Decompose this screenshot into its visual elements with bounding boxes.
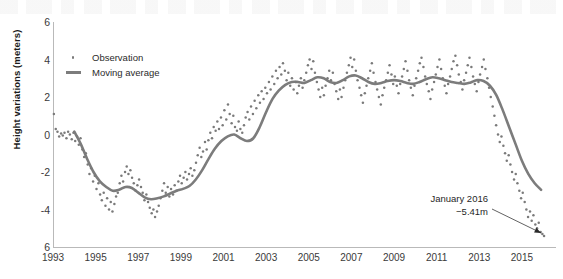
observation-point — [108, 208, 111, 211]
moving-average-line — [74, 75, 541, 199]
observation-point — [113, 203, 116, 206]
observation-point — [95, 188, 98, 191]
observation-point — [371, 62, 374, 65]
observation-point — [431, 88, 434, 91]
observation-point — [152, 208, 155, 211]
observation-point — [342, 86, 345, 89]
observation-point — [186, 178, 189, 181]
observation-point — [154, 216, 157, 219]
observation-point — [284, 70, 287, 73]
observation-point — [294, 81, 297, 84]
observation-point — [323, 94, 326, 97]
observation-point — [465, 71, 468, 74]
observation-point — [287, 71, 290, 74]
observation-point — [333, 83, 336, 86]
observation-point — [204, 141, 207, 144]
observation-point — [518, 190, 521, 193]
observation-point — [396, 85, 399, 88]
observation-point — [353, 58, 356, 61]
observation-point — [335, 90, 338, 93]
observation-point — [285, 79, 288, 82]
observation-point — [433, 81, 436, 84]
observation-point — [198, 146, 201, 149]
observation-point — [172, 193, 175, 196]
observation-point — [392, 83, 395, 86]
observation-point — [180, 182, 183, 185]
observation-point — [303, 79, 306, 82]
observation-point — [244, 116, 247, 119]
observation-point — [463, 79, 466, 82]
observation-point — [268, 81, 271, 84]
x-axis-tick: 2001 — [201, 252, 247, 263]
observation-point — [205, 148, 208, 151]
observation-point — [511, 171, 514, 174]
observation-point — [252, 113, 255, 116]
observation-point — [165, 191, 168, 194]
observation-point — [346, 71, 349, 74]
observation-point — [532, 214, 535, 217]
observation-point — [63, 131, 66, 134]
observation-point — [406, 70, 409, 73]
observation-point — [442, 77, 445, 80]
observation-point — [53, 113, 56, 116]
x-axis-tick: 2007 — [328, 252, 374, 263]
observation-point — [115, 195, 118, 198]
observation-point — [305, 71, 308, 74]
observation-point — [349, 56, 352, 59]
observation-point — [321, 86, 324, 89]
observation-point — [140, 186, 143, 189]
observation-point — [484, 68, 487, 71]
observation-point — [300, 77, 303, 80]
observation-point — [260, 90, 263, 93]
observation-point — [454, 55, 457, 58]
observation-point — [104, 205, 107, 208]
observation-point — [166, 186, 169, 189]
observation-point — [143, 199, 146, 202]
x-axis-tick: 1997 — [115, 252, 161, 263]
observation-point — [374, 81, 377, 84]
observation-point — [475, 90, 478, 93]
plot-area — [0, 0, 563, 279]
observation-point — [86, 163, 89, 166]
observation-point — [362, 101, 365, 104]
observation-point — [451, 68, 454, 71]
observation-point — [177, 180, 180, 183]
observation-point — [173, 184, 176, 187]
observation-point — [161, 190, 164, 193]
observation-point — [97, 182, 100, 185]
x-axis-tick: 2013 — [456, 252, 502, 263]
observation-point — [195, 161, 198, 164]
observation-point — [502, 145, 505, 148]
observation-point — [129, 169, 132, 172]
observation-point — [470, 66, 473, 69]
observation-point — [134, 190, 137, 193]
observation-point — [527, 216, 530, 219]
annotation-leader-line — [492, 209, 541, 233]
observation-point — [351, 66, 354, 69]
observation-point — [94, 175, 97, 178]
observation-point — [365, 85, 368, 88]
observation-point — [301, 86, 304, 89]
observation-point — [193, 169, 196, 172]
observation-point — [110, 201, 113, 204]
observation-point — [344, 79, 347, 82]
observation-point — [120, 175, 123, 178]
observation-point — [399, 83, 402, 86]
observation-point — [488, 86, 491, 89]
x-axis-tick: 1999 — [158, 252, 204, 263]
observation-point — [102, 191, 105, 194]
observation-point — [184, 171, 187, 174]
observation-point — [125, 165, 128, 168]
observation-point — [435, 73, 438, 76]
observation-point — [234, 126, 237, 129]
observation-point — [419, 62, 422, 65]
observation-point — [401, 75, 404, 78]
observation-point — [163, 182, 166, 185]
observation-point — [145, 193, 148, 196]
observation-point — [248, 118, 251, 121]
observation-point — [56, 130, 59, 133]
observation-point — [236, 130, 239, 133]
observation-point — [486, 77, 489, 80]
observation-point — [440, 68, 443, 71]
observation-point — [207, 139, 210, 142]
